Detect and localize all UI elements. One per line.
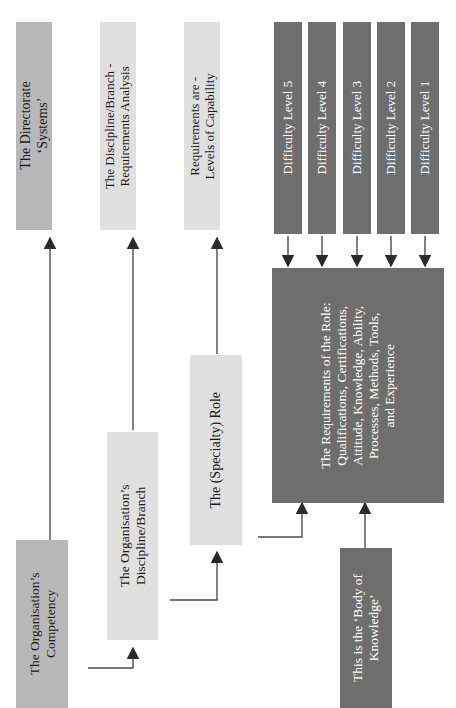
- node-specialty-role[interactable]: The (Specialty) Role: [190, 355, 242, 545]
- node-requirements-of-the-role[interactable]: The Requirements of the Role: Qualificat…: [272, 268, 444, 503]
- org-competency-line2: Competency: [42, 573, 58, 676]
- node-difficulty-level-5[interactable]: Difficulty Level 5: [274, 22, 302, 234]
- role-line4: Processes, Methods, Tools,: [366, 302, 382, 468]
- difficulty-5-label: Difficulty Level 5: [280, 81, 295, 175]
- difficulty-4-label: Difficulty Level 4: [314, 81, 329, 175]
- org-discipline-line2: Discipline/Branch: [133, 485, 149, 588]
- role-line1: The Requirements of the Role:: [318, 302, 334, 468]
- node-requirements-levels-of-capability[interactable]: Requirements are - Levels of Capability: [184, 22, 220, 230]
- node-discipline-branch-requirements-analysis[interactable]: The Discipline/Branch - Requirements Ana…: [100, 22, 136, 230]
- directorate-line1: The Directorate: [17, 82, 34, 170]
- node-difficulty-level-4[interactable]: Difficulty Level 4: [308, 22, 336, 234]
- node-directorate-systems[interactable]: The Directorate ‘Systems’: [16, 22, 52, 230]
- directorate-line2: ‘Systems’: [34, 82, 51, 170]
- requirements-levels-line2: Levels of Capability: [202, 73, 217, 179]
- node-difficulty-level-3[interactable]: Difficulty Level 3: [343, 22, 371, 234]
- link-specialtyrole-to-role: [258, 503, 302, 537]
- node-organisation-competency[interactable]: The Organisation’s Competency: [16, 540, 68, 708]
- diagram-canvas: The Directorate ‘Systems’ The Discipline…: [0, 0, 456, 708]
- difficulty-3-label: Difficulty Level 3: [349, 81, 364, 175]
- node-difficulty-level-2[interactable]: Difficulty Level 2: [377, 22, 405, 234]
- body-of-knowledge-line2: Knowledge’: [366, 574, 382, 682]
- org-competency-line1: The Organisation’s: [26, 573, 42, 676]
- link-orgdiscipline-to-specialtyrole: [170, 552, 217, 600]
- role-line3: Attitude, Knowledge, Ability,: [350, 302, 366, 468]
- org-discipline-line1: The Organisation’s: [117, 485, 133, 588]
- node-organisation-discipline-branch[interactable]: The Organisation’s Discipline/Branch: [107, 432, 158, 640]
- difficulty-1-label: Difficulty Level 1: [417, 81, 432, 175]
- requirements-levels-line1: Requirements are -: [187, 73, 202, 179]
- link-competency-to-orgdiscipline: [88, 648, 133, 668]
- branch-analysis-line1: The Discipline/Branch -: [103, 63, 118, 189]
- body-of-knowledge-line1: This is the ‘Body of: [350, 574, 366, 682]
- node-difficulty-level-1[interactable]: Difficulty Level 1: [411, 22, 439, 234]
- role-line5: and Experience: [382, 302, 398, 468]
- node-body-of-knowledge[interactable]: This is the ‘Body of Knowledge’: [340, 548, 392, 708]
- role-line2: Qualifications, Certifications,: [334, 302, 350, 468]
- difficulty-2-label: Difficulty Level 2: [383, 81, 398, 175]
- specialty-role-label: The (Specialty) Role: [208, 392, 225, 509]
- branch-analysis-line2: Requirements Analysis: [118, 63, 133, 189]
